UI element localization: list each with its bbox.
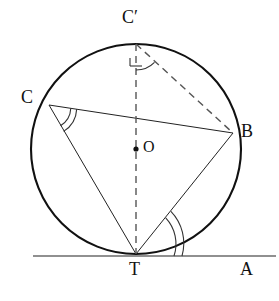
angle-arc-c-inner	[61, 108, 71, 126]
point-label-c-prime: C′	[122, 8, 138, 26]
geometry-figure: C′ C B O T A	[0, 0, 279, 301]
point-label-b: B	[241, 122, 253, 140]
point-label-o: O	[143, 139, 155, 155]
segment-ct	[49, 105, 136, 254]
point-label-a: A	[240, 260, 253, 278]
segment-cprime-b-dashed	[136, 44, 233, 133]
point-label-t: T	[129, 260, 140, 278]
geometry-canvas	[0, 0, 279, 301]
point-label-c: C	[21, 88, 33, 106]
center-point-o-dot	[133, 146, 138, 151]
angle-arc-t-outer	[171, 211, 184, 256]
